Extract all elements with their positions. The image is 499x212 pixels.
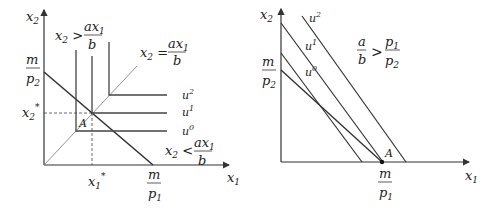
label-u1: u1 <box>305 38 317 53</box>
svg-text:m: m <box>148 167 160 182</box>
point-a-label: A <box>384 147 393 160</box>
left-intercept-y: m p2 <box>26 52 40 88</box>
indifference-curve-u1 <box>92 56 167 113</box>
svg-text:>: > <box>371 44 383 60</box>
svg-text:b: b <box>198 153 206 168</box>
budget-line <box>44 72 153 165</box>
point-a <box>380 160 384 164</box>
svg-text:m: m <box>262 54 274 69</box>
svg-text:b: b <box>88 37 96 52</box>
right-y-axis-label: x2 <box>260 7 273 24</box>
svg-text:x2 <: x2 < <box>165 143 193 160</box>
left-y-axis-label: x2 <box>26 9 39 26</box>
svg-text:m: m <box>26 52 38 67</box>
ray-label: x2 = ax1 b <box>140 36 189 68</box>
svg-text:ax1: ax1 <box>168 36 189 53</box>
svg-text:x2 >: x2 > <box>55 28 83 45</box>
svg-text:p2: p2 <box>26 71 40 88</box>
label-u2: u2 <box>309 10 321 25</box>
indifference-curve-u1 <box>281 23 383 162</box>
svg-text:p1: p1 <box>385 34 399 51</box>
indifference-curve-u0 <box>76 50 167 131</box>
svg-text:a: a <box>358 34 366 49</box>
svg-text:ax1: ax1 <box>194 135 215 152</box>
diagram-canvas: x2 x1 m p2 m p1 x1* x2* A x2 > ax1 b x2 … <box>0 0 499 212</box>
svg-text:b: b <box>173 53 181 68</box>
svg-text:ax1: ax1 <box>84 19 105 36</box>
right-intercept-x: m p1 <box>378 166 393 202</box>
region-below-label: x2 < ax1 b <box>165 135 215 168</box>
svg-text:x2 =: x2 = <box>140 45 168 62</box>
label-u1: u1 <box>182 104 194 119</box>
svg-text:p1: p1 <box>148 186 162 203</box>
ray-line <box>44 66 137 165</box>
svg-text:p1: p1 <box>379 185 393 202</box>
svg-text:p2: p2 <box>262 73 276 90</box>
svg-text:b: b <box>358 52 366 67</box>
right-x-axis-label: x1 <box>465 168 478 185</box>
label-u0: u0 <box>182 123 194 138</box>
x-star-label: x1* <box>88 171 106 191</box>
right-panel: x2 x1 m p2 m p1 A u2 u1 u0 a b > p1 p2 <box>260 7 478 202</box>
budget-line <box>281 70 382 162</box>
label-u2: u2 <box>182 87 194 102</box>
left-x-axis-label: x1 <box>227 170 240 187</box>
y-star-label: x2* <box>22 102 40 122</box>
point-a-label: A <box>78 117 87 130</box>
left-intercept-x: m p1 <box>147 167 162 203</box>
svg-text:m: m <box>379 166 391 181</box>
left-panel: x2 x1 m p2 m p1 x1* x2* A x2 > ax1 b x2 … <box>22 9 240 203</box>
region-above-label: x2 > ax1 b <box>55 19 105 52</box>
right-intercept-y: m p2 <box>262 54 276 90</box>
label-u0: u0 <box>305 64 317 79</box>
svg-text:p2: p2 <box>385 53 399 70</box>
condition-label: a b > p1 p2 <box>357 34 400 70</box>
